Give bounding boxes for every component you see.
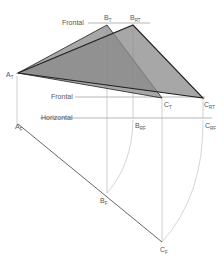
label-c-t: CT [164, 101, 172, 110]
label-a-t: AT [6, 71, 14, 80]
arc-b [107, 120, 133, 193]
label-horizontal: Horizontal [41, 114, 73, 121]
label-b-rt: BRT [130, 14, 141, 23]
label-frontal-top: Frontal [62, 19, 84, 26]
label-b-t: BT [104, 14, 112, 23]
label-b-f: BF [100, 197, 108, 206]
edge-view-line [18, 124, 162, 242]
rotation-diagram: Frontal Frontal Horizontal AT BT BRT CT … [0, 0, 224, 255]
label-c-rf: CRF [205, 122, 216, 131]
label-b-rf: BRF [135, 122, 146, 131]
label-frontal-bottom: Frontal [51, 93, 73, 100]
rotation-arcs [107, 120, 203, 242]
label-c-f: CF [160, 246, 168, 255]
arc-c [162, 120, 203, 242]
label-c-rt: CRT [204, 101, 215, 110]
label-a-f: AF [15, 123, 23, 132]
